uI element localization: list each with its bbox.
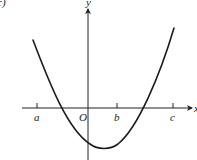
origin-label: O — [79, 111, 87, 123]
panel-label: c) — [0, 0, 6, 9]
parabola-graph: c) x y O a b c — [0, 0, 197, 160]
tick-label-c: c — [170, 111, 175, 123]
parabola-curve — [33, 28, 174, 149]
tick-label-a: a — [34, 111, 40, 123]
tick-label-b: b — [114, 111, 120, 123]
x-axis-label: x — [193, 102, 197, 114]
y-axis-label: y — [85, 0, 91, 8]
